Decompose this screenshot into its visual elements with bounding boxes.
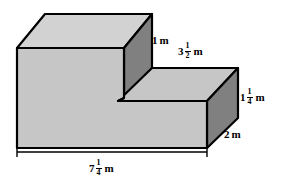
dimension-label-right-height: 1 1 4 m: [240, 88, 265, 106]
right-height-numerator: 1: [247, 88, 253, 96]
dimension-label-base-width: 7 1 4 m: [89, 159, 114, 177]
base-width-denominator: 4: [96, 169, 102, 177]
dimension-label-top-depth: 3 1 2 m: [178, 42, 203, 60]
base-width-fraction: 1 4: [96, 159, 102, 177]
top-depth-numerator: 1: [185, 42, 191, 50]
geometry-figure: 1 m 3 1 2 m 1 1 4 m 2 m 7 1 4 m: [0, 0, 282, 184]
height-top-unit: m: [160, 35, 169, 46]
top-depth-unit: m: [194, 46, 203, 57]
top-depth-fraction: 1 2: [185, 42, 191, 60]
base-width-unit: m: [105, 163, 114, 174]
dimension-label-depth-front: 2 m: [224, 129, 241, 140]
right-height-whole: 1: [240, 92, 246, 103]
depth-front-unit: m: [232, 129, 241, 140]
top-depth-whole: 3: [178, 46, 184, 57]
base-width-numerator: 1: [96, 159, 102, 167]
right-height-fraction: 1 4: [247, 88, 253, 106]
dimension-label-height-top: 1 m: [152, 35, 169, 46]
right-height-denominator: 4: [247, 98, 253, 106]
right-height-unit: m: [256, 92, 265, 103]
depth-front-whole: 2: [224, 129, 230, 140]
height-top-whole: 1: [152, 35, 158, 46]
top-depth-denominator: 2: [185, 52, 191, 60]
base-width-whole: 7: [89, 163, 95, 174]
